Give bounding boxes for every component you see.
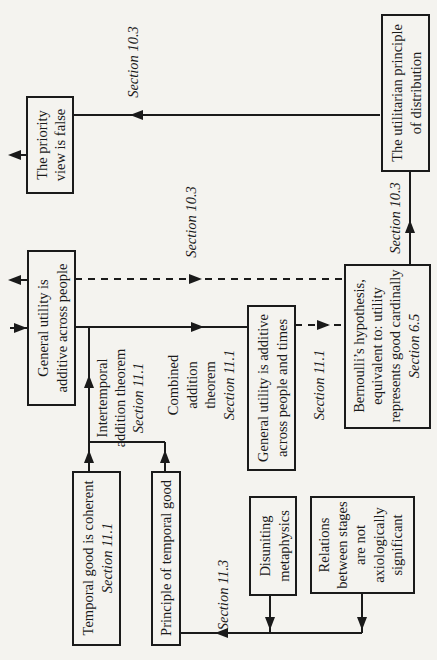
edge-label: Combined	[165, 354, 181, 415]
section-ref: Section 6.5	[406, 314, 422, 378]
node-relations: Relations between stages are not axiolog…	[311, 497, 414, 593]
arrowhead	[160, 450, 170, 463]
edge-label: addition	[184, 360, 200, 408]
arrowhead	[8, 275, 21, 285]
node-text: significant	[389, 514, 405, 575]
node-text: General utility is additive	[255, 314, 271, 462]
edge-label: Intertemporal	[94, 359, 110, 438]
node-text: Bernoulli’s hypothesis,	[351, 279, 367, 413]
node-temporal-coherent: Temporal good is coherent Section 11.1	[73, 472, 120, 645]
node-text: of distribution	[408, 51, 424, 134]
node-principle-temporal: Principle of temporal good	[152, 472, 180, 645]
arrowhead	[14, 323, 27, 333]
node-general-utility-people-times: General utility is additive across peopl…	[248, 306, 295, 470]
node-text: additive across people	[54, 264, 70, 393]
node-text: metaphysics	[276, 510, 292, 582]
section-ref: Section 11.1	[130, 363, 146, 434]
section-ref: Section 11.1	[99, 523, 115, 594]
edge-label: Section 11.3	[215, 560, 231, 631]
node-text: between stages	[334, 501, 350, 589]
node-text: equivalent to: utility	[369, 286, 385, 404]
arrowhead	[8, 150, 21, 160]
node-text: Principle of temporal good	[158, 479, 174, 636]
node-text: The utilitarian principle	[389, 24, 405, 162]
edge-label: Section 10.3	[183, 186, 199, 258]
edge-label: addition theorem	[112, 348, 128, 447]
argument-diagram: The utilitarian principle of distributio…	[0, 0, 437, 660]
arrowhead	[317, 320, 330, 330]
node-utilitarian: The utilitarian principle of distributio…	[382, 15, 429, 171]
arrowhead	[265, 617, 275, 630]
node-disuniting: Disuniting metaphysics	[250, 497, 296, 595]
arrowhead	[84, 375, 94, 388]
node-text: Relations	[316, 517, 332, 572]
arrowhead	[357, 617, 367, 630]
node-bernoulli: Bernoulli’s hypothesis, equivalent to: u…	[345, 265, 430, 428]
edge-label: Section 10.3	[387, 182, 403, 254]
diagram-canvas: The utilitarian principle of distributio…	[0, 0, 437, 660]
arrowhead	[191, 322, 204, 332]
arrowhead	[84, 450, 94, 463]
edge-label: theorem	[202, 361, 218, 409]
section-ref: Section 11.1	[221, 350, 237, 421]
node-text: represents good cardinally	[387, 269, 403, 423]
node-text: axiologically	[371, 506, 387, 582]
node-text: Disuniting	[257, 515, 273, 576]
node-text: General utility is	[35, 279, 51, 377]
edge-label: Section 11.1	[311, 350, 327, 421]
edge-label-combined: Combined addition theorem Section 11.1	[165, 350, 237, 421]
node-text: Temporal good is coherent	[80, 481, 96, 636]
node-text: across people and times	[274, 319, 290, 457]
node-text: view is false	[52, 109, 68, 181]
node-text: The priority	[34, 109, 50, 179]
edge-label-intertemporal: Intertemporal addition theorem Section 1…	[94, 348, 146, 447]
node-text: are not	[352, 525, 368, 565]
arrowhead	[405, 220, 415, 233]
node-general-utility-people: General utility is additive across peopl…	[28, 251, 75, 405]
node-priority: The priority view is false	[27, 97, 73, 193]
arrowhead	[130, 110, 143, 120]
edge-label: Section 10.3	[125, 26, 141, 98]
arrowhead	[189, 274, 202, 284]
